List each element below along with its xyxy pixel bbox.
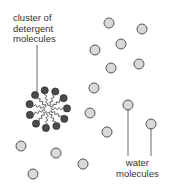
detergent-tail xyxy=(39,112,47,121)
water-molecule xyxy=(104,18,114,28)
water-molecule xyxy=(90,45,100,55)
detergent-head xyxy=(31,91,38,98)
detergent-tail xyxy=(51,110,61,117)
water-molecule xyxy=(16,141,26,151)
detergent-head xyxy=(63,105,70,112)
water-molecule xyxy=(78,159,88,169)
water-molecule xyxy=(134,59,144,69)
water-molecule xyxy=(28,169,38,179)
detergent-head xyxy=(26,111,33,118)
detergent-head xyxy=(52,88,59,95)
detergent-tail xyxy=(50,100,60,108)
detergent-head xyxy=(53,122,60,129)
water-molecule xyxy=(102,127,112,137)
water-molecule xyxy=(116,39,126,49)
detergent-head xyxy=(60,95,67,102)
detergent-head xyxy=(41,87,48,94)
water-molecule xyxy=(137,24,147,34)
detergent-head xyxy=(61,115,68,122)
detergent-molecule xyxy=(51,105,71,112)
diagram-canvas xyxy=(0,0,176,195)
detergent-tail xyxy=(33,105,45,110)
water-molecule xyxy=(146,119,156,129)
detergent-molecule xyxy=(48,88,59,106)
water-molecule xyxy=(89,83,99,93)
water-molecule xyxy=(123,100,133,110)
water-molecule xyxy=(51,148,61,158)
detergent-molecule xyxy=(26,109,45,118)
leader-lines xyxy=(37,45,151,156)
detergent-head xyxy=(26,101,33,108)
detergent-tail xyxy=(45,112,49,124)
detergent-head xyxy=(42,124,49,131)
water-molecule xyxy=(106,63,116,73)
water-molecule xyxy=(85,108,95,118)
detergent-head xyxy=(32,120,39,127)
detergent-cluster xyxy=(26,87,71,132)
